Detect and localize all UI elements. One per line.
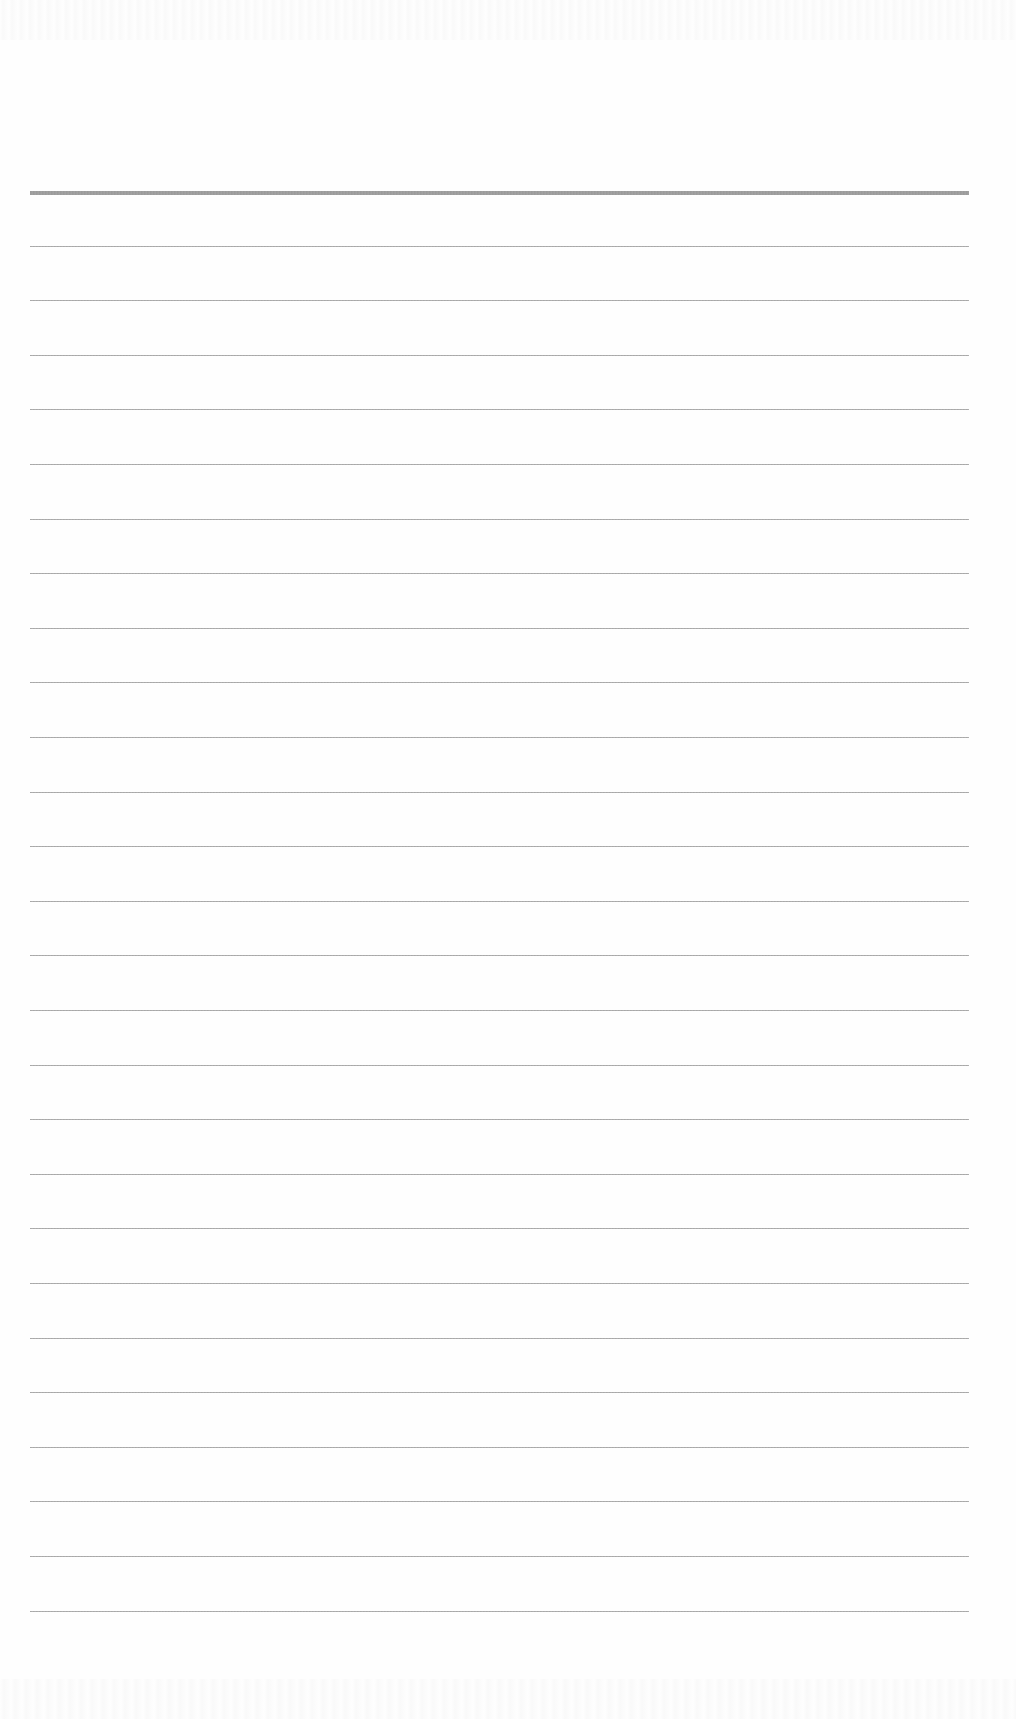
ruled-line: [30, 1119, 969, 1120]
ruled-line: [30, 628, 969, 629]
ruled-line: [30, 1392, 969, 1393]
ruled-line: [30, 355, 969, 356]
heavy-top-rule: [30, 191, 969, 195]
ruled-line: [30, 901, 969, 902]
ruled-line: [30, 682, 969, 683]
ruled-paper-page: [0, 0, 1016, 1719]
ruled-line: [30, 246, 969, 247]
ruled-line: [30, 737, 969, 738]
ruled-line: [30, 846, 969, 847]
ruled-line: [30, 1283, 969, 1284]
ruled-line: [30, 300, 969, 301]
ruled-line: [30, 1065, 969, 1066]
ruled-line: [30, 1501, 969, 1502]
ruled-line: [30, 1010, 969, 1011]
ruled-line: [30, 464, 969, 465]
ruled-line: [30, 1228, 969, 1229]
ruled-line: [30, 1556, 969, 1557]
scan-bleed-through-top: [0, 0, 1016, 40]
ruled-line: [30, 1174, 969, 1175]
ruled-line: [30, 1611, 969, 1612]
ruled-line: [30, 573, 969, 574]
ruled-line: [30, 1447, 969, 1448]
ruled-line: [30, 1338, 969, 1339]
scan-bleed-through-bottom: [0, 1679, 1016, 1719]
ruled-line: [30, 955, 969, 956]
ruled-line: [30, 409, 969, 410]
ruled-line: [30, 519, 969, 520]
ruled-line: [30, 792, 969, 793]
